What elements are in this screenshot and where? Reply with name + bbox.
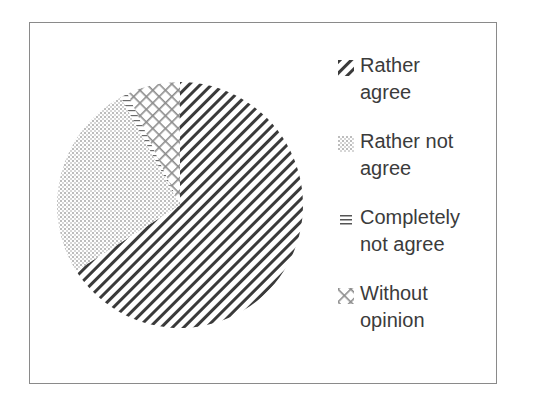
horizontal-lines-swatch-icon bbox=[338, 212, 354, 228]
diagonal-stripes-swatch-icon bbox=[338, 60, 354, 76]
legend-item-rather-agree: Rather agree bbox=[338, 52, 498, 106]
legend-label: Rather not agree bbox=[360, 128, 453, 182]
pie-slices bbox=[57, 82, 303, 328]
legend-label: Without opinion bbox=[360, 280, 428, 334]
legend-label: Completely not agree bbox=[360, 204, 460, 258]
crosshatch-swatch-icon bbox=[338, 288, 354, 304]
legend-item-without-opinion: Without opinion bbox=[338, 280, 498, 334]
dotted-swatch-icon bbox=[338, 136, 354, 152]
legend-item-completely-not-agree: Completely not agree bbox=[338, 204, 498, 258]
legend-label: Rather agree bbox=[360, 52, 420, 106]
legend-item-rather-not-agree: Rather not agree bbox=[338, 128, 498, 182]
legend: Rather agree Rather not agree Completely… bbox=[338, 52, 498, 334]
